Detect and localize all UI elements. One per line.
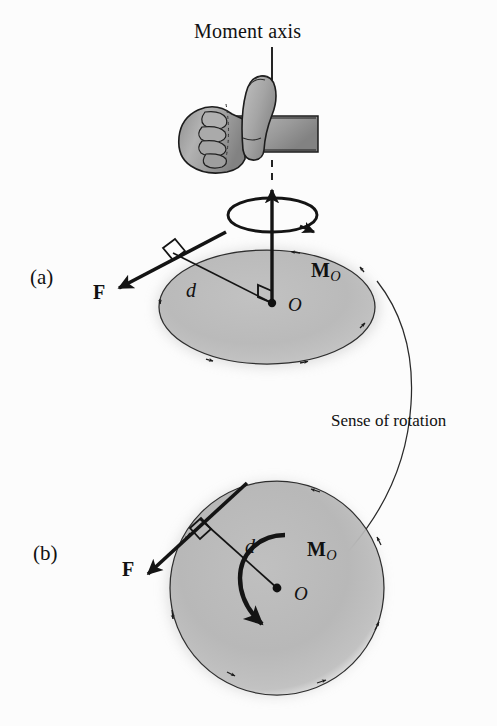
force-label-a: F bbox=[93, 281, 105, 304]
moment-label-b-main: M bbox=[307, 538, 326, 560]
moment-label-a-main: M bbox=[311, 259, 330, 281]
sense-of-rotation-label: Sense of rotation bbox=[331, 411, 446, 431]
moment-label-a-subscript: O bbox=[330, 268, 340, 284]
origin-label-a: O bbox=[288, 294, 302, 316]
moment-label-b-subscript: O bbox=[326, 547, 336, 563]
panel-label-a: (a) bbox=[30, 265, 53, 290]
right-hand-thumbs-up-icon bbox=[179, 76, 318, 173]
origin-point-a bbox=[268, 299, 276, 307]
origin-point-b bbox=[273, 584, 282, 593]
moment-figure bbox=[0, 0, 497, 726]
disk-a bbox=[159, 250, 375, 364]
moment-label-b: MO bbox=[307, 538, 336, 561]
distance-label-b: d bbox=[245, 535, 255, 558]
panel-label-b: (b) bbox=[33, 541, 58, 566]
moment-label-a: MO bbox=[311, 259, 340, 282]
origin-label-b: O bbox=[294, 583, 308, 605]
force-label-b: F bbox=[122, 558, 134, 581]
distance-label-a: d bbox=[186, 279, 196, 302]
panel-b bbox=[148, 481, 384, 695]
figure-title: Moment axis bbox=[194, 20, 301, 43]
